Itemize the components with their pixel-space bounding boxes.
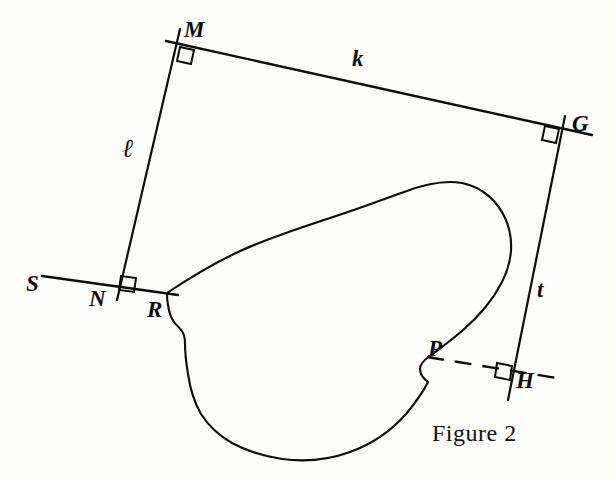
line-label-ell: ℓ — [122, 135, 133, 161]
ray-s-n-r — [42, 276, 178, 295]
right-angle-at-G — [542, 126, 559, 143]
point-label-M: M — [184, 18, 204, 41]
point-label-P: P — [428, 337, 442, 360]
line-ell-segment — [117, 29, 180, 300]
point-label-S: S — [26, 272, 39, 295]
line-t-segment — [508, 116, 565, 400]
line-label-k: k — [352, 47, 364, 70]
right-angle-at-H — [495, 363, 512, 380]
right-angle-at-M — [177, 47, 194, 64]
irregular-closed-curve — [167, 182, 511, 460]
point-label-H: H — [516, 369, 534, 392]
point-label-G: G — [572, 112, 589, 135]
figure-caption: Figure 2 — [432, 420, 517, 447]
line-k-segment — [166, 41, 592, 135]
figure-page: M G S N R P H k t ℓ Figure 2 — [0, 0, 615, 483]
point-label-R: R — [147, 298, 162, 321]
point-label-N: N — [89, 287, 106, 310]
figure-drawing-canvas — [0, 0, 615, 483]
line-label-t: t — [537, 278, 543, 301]
